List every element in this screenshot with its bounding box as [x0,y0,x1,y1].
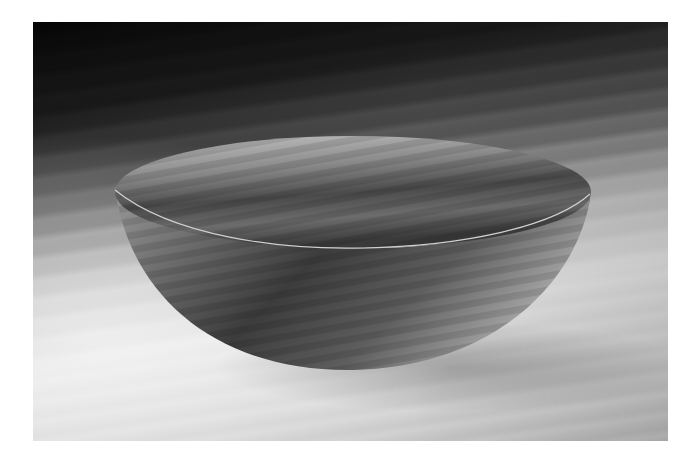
bowl-photograph [33,22,668,441]
bowl [33,22,668,441]
